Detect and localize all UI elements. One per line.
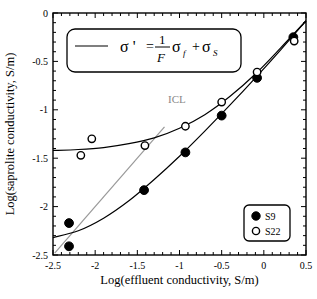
equation-lhs: σ ': [120, 38, 136, 55]
legend-open-circle-icon: [252, 227, 259, 234]
x-axis-title: Log(effluent conductivity, S/m): [100, 273, 258, 287]
y-axis-title: Log(saprolite conductivity, S/m): [3, 53, 17, 216]
x-tick-label: -2: [91, 260, 99, 271]
data-point-s9: [140, 186, 149, 195]
y-tick-label: -2.5: [32, 250, 48, 261]
data-point-s22: [182, 123, 189, 130]
data-point-s22: [290, 37, 297, 44]
equation-term2-sub: S: [213, 48, 218, 58]
icl-label: ICL: [168, 93, 186, 105]
legend-label-s22: S22: [265, 226, 281, 237]
y-tick-label: -2: [40, 201, 48, 212]
data-point-s9: [181, 148, 190, 157]
equation-box: σ ' = 1 F σ f + σ S: [67, 29, 241, 72]
data-point-s9: [217, 111, 226, 120]
equation-numerator: 1: [159, 32, 166, 47]
y-tick-label: -1.5: [32, 153, 48, 164]
x-tick-label: -1.5: [129, 260, 145, 271]
y-tick-label: -0.5: [32, 56, 48, 67]
data-point-s22: [218, 98, 225, 105]
legend-filled-circle-icon: [252, 212, 260, 220]
equation-term2: σ: [202, 38, 211, 55]
data-point-s9: [65, 242, 74, 251]
x-tick-label: 0: [261, 260, 266, 271]
legend-label-s9: S9: [265, 211, 276, 222]
data-point-s22: [253, 68, 260, 75]
x-tick-label: -0.5: [214, 260, 230, 271]
data-point-s22: [88, 135, 95, 142]
x-tick-label: 0.5: [300, 260, 313, 271]
y-tick-label: -1: [40, 104, 48, 115]
data-point-s9: [65, 219, 74, 228]
equation-term1: σ: [172, 38, 181, 55]
data-point-s22: [141, 142, 148, 149]
equation-denominator: F: [156, 50, 166, 65]
equation-equals: =: [146, 39, 154, 54]
chart: -2.5-2-1.5-1-0.500.50-0.5-1-1.5-2-2.5 IC…: [0, 0, 317, 299]
x-tick-label: -2.5: [45, 260, 61, 271]
data-point-s22: [77, 152, 84, 159]
legend: S9 S22: [244, 205, 290, 241]
y-tick-label: 0: [43, 8, 48, 19]
equation-plus: +: [192, 39, 200, 54]
x-tick-label: -1: [175, 260, 183, 271]
